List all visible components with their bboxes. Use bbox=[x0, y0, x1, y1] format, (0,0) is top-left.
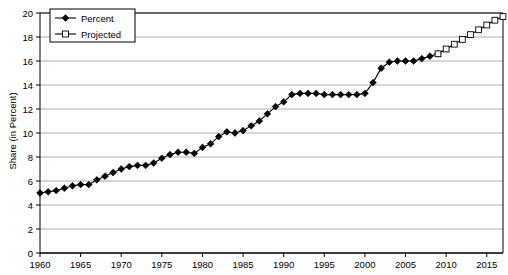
chart-container: Share (in Percent) 02468101214161820 196… bbox=[0, 0, 508, 275]
data-point-marker-diamond bbox=[337, 91, 344, 98]
data-point-marker-diamond bbox=[118, 166, 125, 173]
data-point-marker-diamond bbox=[158, 155, 165, 162]
data-point-marker-diamond bbox=[61, 185, 68, 192]
data-point-marker-diamond bbox=[134, 162, 141, 169]
x-tick-label: 1985 bbox=[232, 259, 253, 270]
y-tick-label: 14 bbox=[22, 80, 33, 91]
x-tick-label: 1975 bbox=[151, 259, 172, 270]
x-tick-label: 1995 bbox=[314, 259, 335, 270]
y-axis-ticks: 02468101214161820 bbox=[22, 8, 40, 259]
data-point-marker-diamond bbox=[345, 91, 352, 98]
data-point-marker-diamond bbox=[394, 58, 401, 65]
y-tick-label: 18 bbox=[22, 32, 33, 43]
y-tick-label: 2 bbox=[28, 224, 33, 235]
data-point-marker-square bbox=[459, 37, 465, 43]
x-tick-label: 2015 bbox=[476, 259, 497, 270]
data-point-marker-diamond bbox=[102, 173, 109, 180]
data-point-marker-diamond bbox=[297, 90, 304, 97]
data-point-marker-diamond bbox=[69, 182, 76, 189]
data-point-marker-diamond bbox=[305, 90, 312, 97]
data-point-marker-diamond bbox=[410, 58, 417, 65]
data-point-marker-diamond bbox=[126, 163, 133, 170]
data-point-marker-diamond bbox=[183, 149, 190, 156]
data-point-marker-diamond bbox=[313, 90, 320, 97]
data-point-marker-diamond bbox=[85, 181, 92, 188]
data-point-marker-diamond bbox=[53, 187, 60, 194]
gridlines-group bbox=[40, 13, 503, 253]
y-tick-label: 0 bbox=[28, 248, 33, 259]
data-point-marker-square bbox=[468, 32, 474, 38]
data-point-marker-diamond bbox=[329, 91, 336, 98]
legend-label: Percent bbox=[81, 13, 114, 24]
x-tick-label: 1965 bbox=[70, 259, 91, 270]
data-point-marker-diamond bbox=[93, 176, 100, 183]
data-point-marker-diamond bbox=[77, 181, 84, 188]
y-tick-label: 10 bbox=[22, 128, 33, 139]
series-line bbox=[40, 54, 438, 193]
data-point-marker-diamond bbox=[45, 188, 52, 195]
data-point-marker-square bbox=[443, 46, 449, 52]
x-tick-label: 1970 bbox=[111, 259, 132, 270]
chart-legend: PercentProjected bbox=[50, 9, 135, 42]
data-point-marker-diamond bbox=[150, 160, 157, 167]
x-axis-ticks: 1960196519701975198019851990199520002005… bbox=[29, 253, 497, 270]
y-tick-label: 6 bbox=[28, 176, 33, 187]
y-tick-label: 4 bbox=[28, 200, 33, 211]
x-tick-label: 1980 bbox=[192, 259, 213, 270]
y-tick-label: 16 bbox=[22, 56, 33, 67]
data-point-marker-square bbox=[476, 27, 482, 33]
y-tick-label: 12 bbox=[22, 104, 33, 115]
data-point-marker-diamond bbox=[37, 190, 44, 197]
data-point-marker-square bbox=[492, 17, 498, 23]
data-point-marker-diamond bbox=[175, 149, 182, 156]
x-tick-label: 1960 bbox=[29, 259, 50, 270]
data-point-marker-square bbox=[484, 22, 490, 28]
data-point-marker-square bbox=[435, 51, 441, 57]
y-tick-label: 8 bbox=[28, 152, 33, 163]
y-tick-label: 20 bbox=[22, 8, 33, 19]
data-point-marker-square bbox=[451, 41, 457, 47]
data-point-marker-diamond bbox=[232, 130, 239, 137]
x-tick-label: 2005 bbox=[395, 259, 416, 270]
series-lines-group bbox=[40, 17, 503, 193]
y-axis-label: Share (in Percent) bbox=[6, 0, 20, 266]
data-point-marker-diamond bbox=[426, 53, 433, 60]
x-tick-label: 2000 bbox=[354, 259, 375, 270]
line-chart: 02468101214161820 1960196519701975198019… bbox=[0, 0, 508, 275]
data-point-marker-square bbox=[63, 31, 69, 37]
data-point-marker-diamond bbox=[110, 169, 117, 176]
data-point-marker-diamond bbox=[402, 58, 409, 65]
data-point-marker-diamond bbox=[353, 91, 360, 98]
data-point-marker-diamond bbox=[248, 122, 255, 129]
data-point-marker-diamond bbox=[321, 91, 328, 98]
x-tick-label: 2010 bbox=[436, 259, 457, 270]
data-point-marker-diamond bbox=[142, 162, 149, 169]
legend-label: Projected bbox=[81, 29, 121, 40]
data-point-marker-square bbox=[500, 14, 506, 20]
x-tick-label: 1990 bbox=[273, 259, 294, 270]
data-point-marker-diamond bbox=[223, 128, 230, 135]
